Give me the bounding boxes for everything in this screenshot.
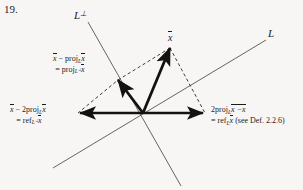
ref-L-proj: 2proj: [211, 105, 228, 114]
ref-perp-x1: x: [10, 105, 14, 114]
proj-perp-x2: x: [81, 54, 85, 63]
label-ref-perp: x − 2projLx = refL⊥x: [10, 105, 46, 126]
vector-proj-perp: [118, 80, 143, 113]
axis-label-L-letter: L: [268, 27, 274, 39]
label-proj-perp: x − projLx = projL⊥x: [53, 54, 85, 75]
ref-perp-op: − 2proj: [14, 105, 39, 114]
ref-L-x1: x −: [231, 105, 242, 114]
x-bar-glyph: x: [168, 32, 172, 44]
label-ref-L-line2: = refLx (see Def. 2.2.6): [211, 116, 285, 127]
ref-L-definition-note: (see Def. 2.2.6): [233, 116, 285, 125]
dashed-construction-right: [170, 48, 205, 113]
vector-diagram-svg: [0, 0, 303, 190]
label-ref-perp-line2: = refL⊥x: [10, 116, 46, 127]
ref-L-x3: x: [230, 116, 234, 125]
vector-label-x: x: [168, 32, 172, 44]
label-proj-perp-line2: = projL⊥x: [53, 65, 85, 76]
proj-perp-op: − proj: [57, 54, 78, 63]
ref-perp-x2: x: [42, 105, 46, 114]
proj-perp-x1: x: [53, 54, 57, 63]
figure-page: 19. L⊥ L x x − projLx: [0, 0, 303, 190]
axis-label-L: L: [268, 27, 274, 40]
perpendicular-icon: ⊥: [80, 9, 87, 18]
proj-perp-eq: = proj: [55, 65, 74, 74]
ref-L-x2: x: [242, 105, 246, 114]
label-ref-L-line1: 2projLx − x: [211, 105, 285, 116]
axis-label-L-perp: L⊥: [74, 9, 87, 22]
ref-L-eq: = ref: [211, 116, 226, 125]
proj-perp-x3: x: [81, 65, 85, 74]
ref-perp-eq: = ref: [16, 116, 31, 125]
ref-perp-x3: x: [38, 116, 42, 125]
label-ref-L: 2projLx − x = refLx (see Def. 2.2.6): [211, 105, 285, 126]
vector-x: [143, 48, 170, 113]
